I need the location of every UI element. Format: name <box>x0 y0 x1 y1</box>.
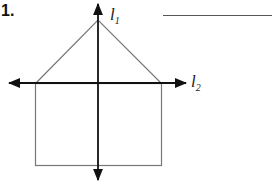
symmetry-figure: l1 l2 <box>0 0 272 187</box>
label-l1: l1 <box>110 5 120 26</box>
label-l2: l2 <box>191 72 201 93</box>
